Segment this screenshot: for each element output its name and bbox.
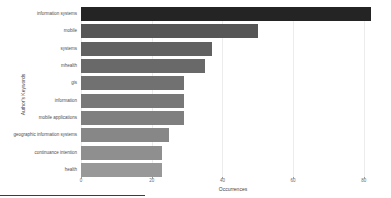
category-label: information systems [37, 12, 77, 17]
bar-row: continuance intention [81, 146, 385, 160]
x-tick-mark [293, 177, 294, 179]
category-label: gis [71, 81, 77, 86]
x-tick-label: 20 [149, 179, 154, 184]
bar-row: mobile applications [81, 111, 385, 125]
bar [81, 128, 169, 142]
x-tick-label: 40 [220, 179, 225, 184]
bar [81, 76, 184, 90]
bar-rows: information systems mobile systems mheal… [81, 7, 385, 177]
category-label: continuance intention [34, 150, 77, 155]
bar [81, 59, 205, 73]
bar [81, 111, 184, 125]
bar-row: information [81, 94, 385, 108]
x-tick-mark [81, 177, 82, 179]
category-label: geographic information systems [13, 133, 77, 138]
plot-area: information systems mobile systems mheal… [81, 7, 385, 177]
category-label: information [55, 98, 77, 103]
bottom-edge-line [0, 195, 145, 196]
x-tick-mark [222, 177, 223, 179]
bar [81, 7, 371, 21]
category-label: mhealth [61, 64, 77, 69]
bar-row: information systems [81, 7, 385, 21]
x-tick-mark [152, 177, 153, 179]
category-label: mobile [64, 29, 77, 34]
bar-row: geographic information systems [81, 128, 385, 142]
bar-row: health [81, 163, 385, 177]
y-axis-title: Author's Keywords [21, 74, 26, 116]
bar-row: mobile [81, 24, 385, 38]
category-label: systems [60, 46, 77, 51]
bar-row: mhealth [81, 59, 385, 73]
bar-row: gis [81, 76, 385, 90]
bar-chart: Author's Keywords information systems mo… [0, 0, 391, 198]
category-label: mobile applications [39, 116, 77, 121]
x-tick-mark [364, 177, 365, 179]
category-label: health [65, 168, 77, 173]
bar-row: systems [81, 42, 385, 56]
x-tick-label: 80 [361, 179, 366, 184]
bar [81, 24, 258, 38]
bar [81, 146, 162, 160]
x-tick-label: 0 [80, 179, 83, 184]
x-axis-title: Occurrences [219, 187, 247, 192]
bar [81, 94, 184, 108]
bar [81, 42, 212, 56]
bar [81, 163, 162, 177]
x-tick-label: 60 [291, 179, 296, 184]
